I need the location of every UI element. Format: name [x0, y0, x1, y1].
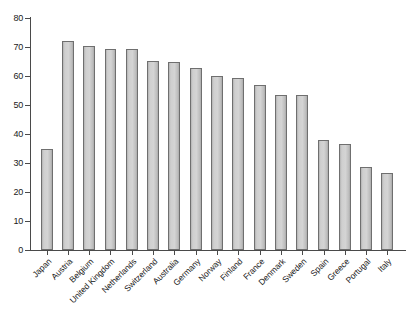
- caption-remnant: [100, 303, 400, 315]
- x-axis-tick-labels: JapanAustriaBelgiumUnited KingdomNetherl…: [0, 0, 412, 320]
- bar-chart: 01020304050607080 JapanAustriaBelgiumUni…: [0, 0, 412, 320]
